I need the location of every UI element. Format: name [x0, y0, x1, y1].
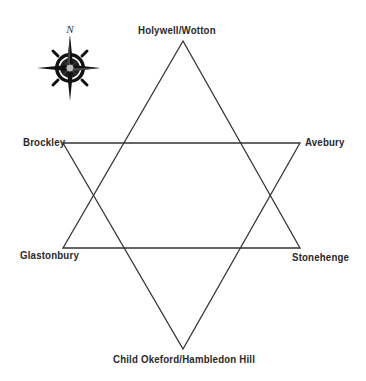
downward-triangle [63, 143, 300, 349]
upward-triangle [63, 41, 300, 248]
north-label: N [65, 23, 74, 35]
compass-rose-icon: N [37, 23, 100, 101]
node-label-lower-left: Glastonbury [20, 249, 79, 261]
node-label-upper-right: Avebury [305, 136, 345, 148]
node-label-upper-left: Brockley [23, 136, 65, 148]
hexagram-diagram: N [0, 0, 366, 381]
node-label-top: Holywell/Wotton [138, 24, 216, 36]
node-label-bottom: Child Okeford/Hambledon Hill [113, 353, 255, 365]
node-label-lower-right: Stonehenge [292, 251, 349, 263]
